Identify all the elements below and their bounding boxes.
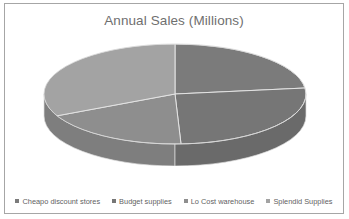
legend-swatch-icon [15, 199, 19, 203]
legend-item-label: Splendid Supplies [273, 198, 332, 205]
legend-item[interactable]: Budget supplies [112, 198, 172, 205]
legend-item-label: Lo Cost warehouse [191, 198, 255, 205]
pie-chart-3d [42, 38, 308, 166]
legend-swatch-icon [266, 199, 270, 203]
legend-item-label: Budget supplies [119, 198, 172, 205]
legend-item-label: Cheapo discount stores [22, 198, 100, 205]
legend-item[interactable]: Cheapo discount stores [15, 198, 100, 205]
legend-swatch-icon [184, 199, 188, 203]
chart-legend: Cheapo discount stores Budget supplies L… [5, 198, 343, 205]
chart-title: Annual Sales (Millions) [5, 13, 343, 28]
chart-container: Annual Sales (Millions) [4, 3, 344, 214]
plot-area [5, 30, 345, 182]
legend-item[interactable]: Lo Cost warehouse [184, 198, 255, 205]
legend-swatch-icon [112, 199, 116, 203]
pie-chart-svg [42, 38, 308, 166]
legend-item[interactable]: Splendid Supplies [266, 198, 332, 205]
pie-slice-cheapo-discount-stores[interactable] [175, 44, 305, 94]
